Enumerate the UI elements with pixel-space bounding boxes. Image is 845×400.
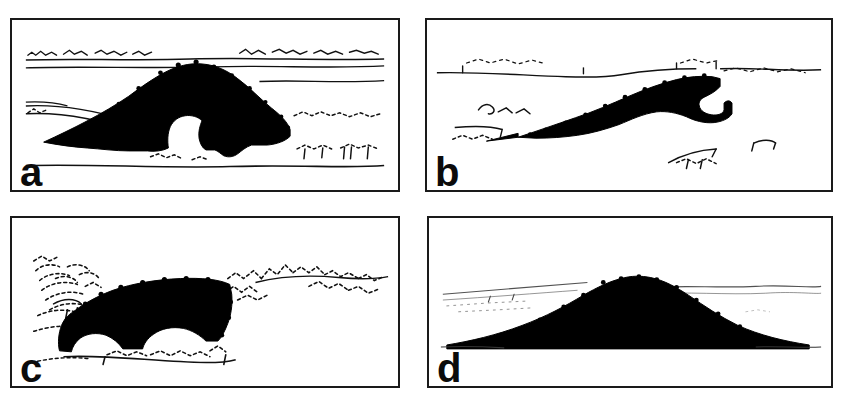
panel-d-label: d bbox=[437, 348, 461, 388]
panel-b: b bbox=[425, 18, 833, 192]
panel-a: a bbox=[10, 18, 400, 192]
panel-c: c bbox=[10, 216, 400, 388]
panel-b-label: b bbox=[435, 152, 459, 192]
panel-a-label: a bbox=[20, 152, 42, 192]
panel-c-drawing bbox=[12, 218, 398, 386]
panel-c-label: c bbox=[20, 348, 42, 388]
panel-d: d bbox=[427, 216, 833, 388]
panel-b-drawing bbox=[427, 20, 831, 190]
panel-a-drawing bbox=[12, 20, 398, 190]
figure-root: a bbox=[0, 0, 845, 400]
panel-d-ground-right bbox=[756, 347, 821, 348]
panel-d-drawing bbox=[429, 218, 831, 386]
